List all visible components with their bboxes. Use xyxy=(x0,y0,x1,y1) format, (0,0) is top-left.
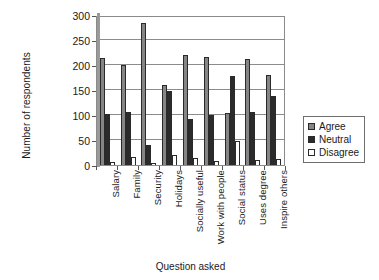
y-tick-label: 50 xyxy=(58,136,90,147)
x-category-label: Family xyxy=(132,170,142,199)
y-axis-tick-labels: 050100150200250300 xyxy=(58,10,90,166)
bar-neutral xyxy=(146,145,151,166)
bar-group xyxy=(97,17,118,165)
bar-disagree xyxy=(276,159,281,166)
y-tick-label: 0 xyxy=(58,161,90,172)
bars-layer xyxy=(97,17,284,165)
chart-legend: AgreeNeutralDisagree xyxy=(303,116,365,163)
legend-item-neutral[interactable]: Neutral xyxy=(308,133,359,146)
x-category-label: Uses degree xyxy=(258,170,268,225)
legend-label: Disagree xyxy=(319,147,359,158)
plot-area xyxy=(96,16,285,166)
bar-disagree xyxy=(110,162,115,166)
bar-neutral xyxy=(250,112,255,166)
bar-neutral xyxy=(105,114,110,166)
legend-swatch-icon xyxy=(308,149,315,156)
y-tick-label: 250 xyxy=(58,36,90,47)
bar-neutral xyxy=(209,115,214,166)
y-tick-label: 100 xyxy=(58,111,90,122)
legend-swatch-icon xyxy=(308,123,315,130)
x-category-label: Security xyxy=(153,170,163,205)
x-category-label: Social status xyxy=(237,170,247,225)
x-category-label: Salary xyxy=(111,170,121,198)
bar-disagree xyxy=(193,158,198,165)
legend-item-disagree[interactable]: Disagree xyxy=(308,146,359,159)
legend-label: Neutral xyxy=(319,134,351,145)
bar-group xyxy=(118,17,139,165)
x-category-label: Inspire others xyxy=(279,170,289,229)
y-tick-label: 200 xyxy=(58,61,90,72)
bar-group xyxy=(222,17,243,165)
x-category-label: Socially useful xyxy=(195,170,205,232)
bar-disagree xyxy=(172,155,177,165)
y-axis-title: Number of respondents xyxy=(21,26,32,186)
bar-group xyxy=(263,17,284,165)
bar-group xyxy=(201,17,222,165)
bar-disagree xyxy=(131,157,136,165)
bar-group xyxy=(180,17,201,165)
legend-item-agree[interactable]: Agree xyxy=(308,120,359,133)
bar-disagree xyxy=(235,141,240,165)
x-axis-title: Question asked xyxy=(96,261,285,272)
bar-group xyxy=(139,17,160,165)
bar-disagree xyxy=(151,163,156,165)
plot-inner xyxy=(97,17,284,165)
x-category-label: Holidays xyxy=(174,170,184,207)
legend-label: Agree xyxy=(319,121,346,132)
y-tick-label: 300 xyxy=(58,11,90,22)
bar-group xyxy=(159,17,180,165)
y-tick-label: 150 xyxy=(58,86,90,97)
legend-swatch-icon xyxy=(308,136,315,143)
bar-disagree xyxy=(255,160,260,165)
bar-neutral xyxy=(271,96,276,166)
bar-group xyxy=(242,17,263,165)
bar-disagree xyxy=(214,161,219,166)
bar-neutral xyxy=(167,91,172,165)
x-category-label: Work with people xyxy=(216,170,226,244)
x-axis-category-labels: SalaryFamilySecurityHolidaysSocially use… xyxy=(96,170,285,250)
